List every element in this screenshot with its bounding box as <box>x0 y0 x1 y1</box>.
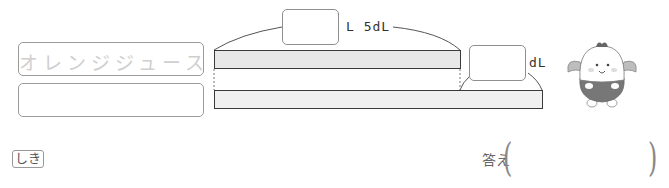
answer-open-paren: ( <box>503 137 512 177</box>
answer-close-paren: ) <box>648 137 657 177</box>
answer-field[interactable] <box>520 140 640 180</box>
formula-label: しき <box>12 150 44 168</box>
